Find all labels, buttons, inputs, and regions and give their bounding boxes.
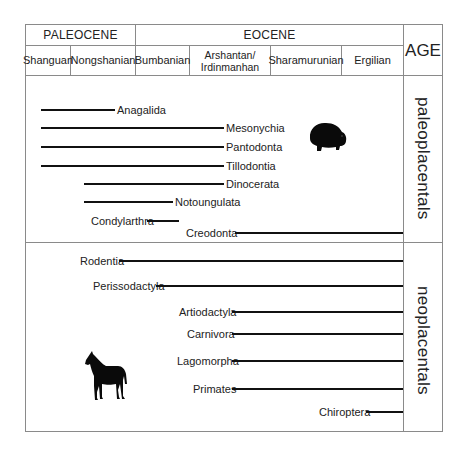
mammal-silhouette-icon [306, 120, 348, 156]
taxon-label-dinocerata: Dinocerata [226, 178, 279, 190]
range-bar-tillodontia [41, 165, 224, 167]
range-bar-carnivora [232, 333, 403, 335]
age-column-divider [403, 24, 404, 432]
taxon-label-mesonychia: Mesonychia [226, 122, 285, 134]
range-bar-creodonta [235, 232, 403, 234]
taxon-label-primates: Primates [193, 383, 236, 395]
taxon-label-creodonta: Creodonta [186, 227, 237, 239]
stage-nongshanian: Nongshanian [71, 46, 135, 75]
range-bar-perissodactyla [156, 285, 403, 287]
taxon-label-carnivora: Carnivora [187, 328, 235, 340]
stage-shanguan: Shanguan [26, 46, 70, 75]
taxon-label-perissodactyla: Perissodactyla [93, 280, 165, 292]
stage-sharamurunian: Sharamurunian [271, 46, 341, 75]
group-label-neoplacentals: neoplacentals [408, 278, 438, 402]
group-label-paleoplacentals: paleoplacentals [408, 88, 438, 228]
table-right-border [442, 24, 443, 432]
table-left-border [25, 24, 26, 432]
epoch-paleocene: PALEOCENE [26, 25, 135, 45]
taxon-label-condylarthra: Condylarthra [91, 215, 154, 227]
age-label: AGE [404, 25, 442, 75]
taxon-label-artiodactyla: Artiodactyla [179, 306, 236, 318]
range-bar-condylarthra [147, 220, 179, 222]
horse-silhouette-icon [82, 350, 130, 402]
range-bar-chiroptera [366, 411, 403, 413]
stage-arshantan-irdinmanhan: Arshantan/ Irdinmanhan [190, 46, 270, 75]
stage-ergilian: Ergilian [342, 46, 403, 75]
table-bottom-border [25, 431, 442, 432]
taxon-label-anagalida: Anagalida [117, 104, 166, 116]
header-bottom-border [25, 75, 442, 76]
range-bar-primates [232, 388, 403, 390]
taxon-label-lagomorpha: Lagomorpha [177, 355, 239, 367]
taxon-label-notoungulata: Notoungulata [175, 196, 240, 208]
range-bar-pantodonta [41, 146, 224, 148]
range-bar-dinocerata [84, 183, 224, 185]
range-bar-rodentia [119, 260, 403, 262]
range-bar-mesonychia [41, 127, 224, 129]
taxon-label-chiroptera: Chiroptera [319, 406, 370, 418]
epoch-eocene: EOCENE [136, 25, 403, 45]
range-bar-artiodactyla [232, 311, 403, 313]
stage-bumbanian: Bumbanian [136, 46, 189, 75]
taxon-label-pantodonta: Pantodonta [226, 141, 282, 153]
range-bar-notoungulata [84, 201, 173, 203]
taxon-label-rodentia: Rodentia [80, 255, 124, 267]
range-bar-lagomorpha [232, 360, 403, 362]
range-bar-anagalida [41, 109, 115, 111]
taxon-label-tillodontia: Tillodontia [226, 160, 276, 172]
group-divider [25, 242, 442, 243]
